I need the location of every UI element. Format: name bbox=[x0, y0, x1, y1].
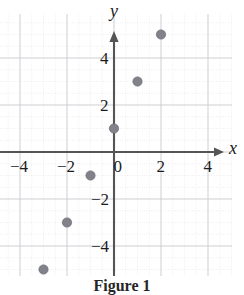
axes bbox=[0, 31, 224, 276]
data-point bbox=[39, 265, 48, 274]
y-axis-tick-label: 4 bbox=[100, 50, 109, 67]
y-axis-tick-label: −4 bbox=[91, 238, 109, 255]
x-axis-tick-label: −4 bbox=[10, 158, 28, 175]
x-axis-label: x bbox=[229, 139, 237, 157]
y-axis-tick-label: 2 bbox=[100, 97, 109, 114]
data-point bbox=[156, 30, 165, 39]
data-point bbox=[133, 77, 142, 86]
x-axis-tick-label: −2 bbox=[57, 158, 75, 175]
grid-minor bbox=[0, 14, 232, 276]
y-axis-label: y bbox=[110, 2, 118, 20]
data-point bbox=[86, 171, 95, 180]
x-axis-tick-label: 2 bbox=[157, 158, 166, 175]
data-point bbox=[109, 124, 118, 133]
x-axis-tick-label: 0 bbox=[114, 158, 123, 175]
grid-major bbox=[0, 14, 232, 276]
y-axis-tick-label: −2 bbox=[91, 191, 109, 208]
data-point bbox=[62, 218, 71, 227]
x-axis-tick-label: 4 bbox=[204, 158, 213, 175]
figure-caption: Figure 1 bbox=[0, 277, 244, 295]
